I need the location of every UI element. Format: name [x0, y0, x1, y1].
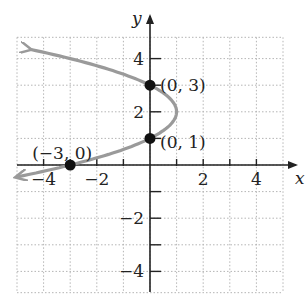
x-tick-label: 2 — [198, 169, 209, 189]
point-label: (−3, 0) — [32, 143, 92, 163]
y-tick-label: −4 — [119, 261, 144, 281]
y-tick-label: −2 — [119, 208, 144, 228]
point-marker — [145, 133, 156, 144]
point-marker — [145, 80, 156, 91]
y-tick-label: 2 — [133, 102, 144, 122]
x-tick-label: −2 — [84, 169, 109, 189]
y-tick-label: 4 — [133, 49, 144, 69]
point-label: (0, 1) — [160, 132, 206, 152]
point-label: (0, 3) — [160, 75, 206, 95]
parabola-chart: −4−22442−2−4 x y (0, 3)(0, 1)(−3, 0) — [0, 0, 305, 299]
x-axis-label: x — [295, 168, 305, 188]
labeled-points: (0, 3)(0, 1)(−3, 0) — [32, 75, 206, 170]
x-tick-label: 4 — [251, 169, 262, 189]
y-axis-label: y — [131, 8, 142, 28]
